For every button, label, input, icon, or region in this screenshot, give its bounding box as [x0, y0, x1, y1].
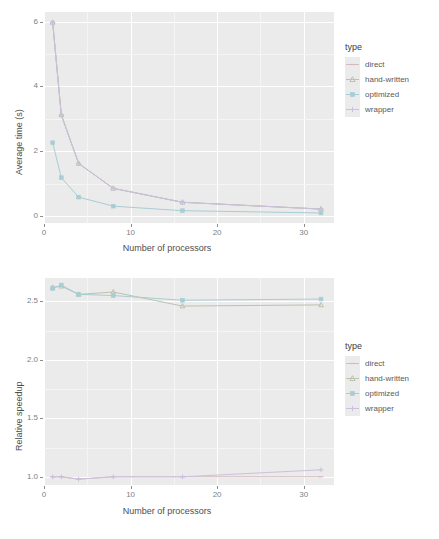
y-tick-label: 4: [10, 81, 38, 90]
legend-title-bottom: type: [345, 341, 409, 351]
data-point-wrapper: [76, 477, 81, 482]
x-tick-mark: [217, 224, 218, 227]
y-tick-label: 1.0: [10, 472, 38, 481]
series-line-wrapper: [53, 470, 321, 479]
y-tick-mark: [40, 216, 43, 217]
legend-label-optimized: optimized: [365, 389, 399, 398]
y-tick-label: 0: [10, 211, 38, 220]
y-tick-label: 2.0: [10, 355, 38, 364]
legend-label-hand-written: hand-written: [365, 374, 409, 383]
y-tick-label: 6: [10, 17, 38, 26]
x-tick-label: 30: [290, 228, 318, 237]
x-tick-label: 30: [290, 490, 318, 499]
x-tick-mark: [131, 486, 132, 489]
legend-items-bottom: direct hand-written optimized: [345, 356, 409, 416]
data-point-optimized: [51, 287, 55, 291]
legend-key-hand-written-icon: [345, 371, 360, 386]
x-tick-label: 10: [117, 490, 145, 499]
figure-root: Average time (s) Number of processors ty…: [0, 0, 439, 539]
data-point-wrapper: [59, 474, 64, 479]
data-point-optimized: [181, 298, 185, 302]
y-tick-label: 2.5: [10, 296, 38, 305]
y-tick-mark: [40, 301, 43, 302]
y-tick-mark: [40, 151, 43, 152]
x-tick-mark: [217, 486, 218, 489]
panel-relative-speedup: Relative speedup Number of processors ty…: [0, 266, 439, 539]
series-line-hand-written: [53, 22, 321, 209]
series-layer-top: [44, 12, 334, 223]
x-tick-label: 0: [30, 490, 58, 499]
data-point-optimized: [77, 292, 81, 296]
x-tick-label: 20: [203, 490, 231, 499]
x-tick-mark: [304, 224, 305, 227]
legend-key-hand-written-icon: [345, 72, 360, 87]
legend-item-hand-written[interactable]: hand-written: [345, 72, 409, 87]
data-point-optimized: [59, 283, 63, 287]
data-point-optimized: [319, 211, 323, 215]
legend-label-hand-written: hand-written: [365, 75, 409, 84]
data-point-wrapper: [180, 474, 185, 479]
legend-items-top: direct hand-written optimized: [345, 57, 409, 117]
data-point-wrapper: [319, 467, 324, 472]
legend-item-optimized[interactable]: optimized: [345, 386, 409, 401]
y-tick-mark: [40, 418, 43, 419]
x-tick-label: 10: [117, 228, 145, 237]
legend-item-direct[interactable]: direct: [345, 57, 409, 72]
y-tick-mark: [40, 22, 43, 23]
data-point-optimized: [111, 294, 115, 298]
plot-area-top: [44, 12, 334, 223]
x-tick-label: 0: [30, 228, 58, 237]
legend-title-top: type: [345, 42, 409, 52]
data-point-optimized: [59, 176, 63, 180]
plot-area-bottom: [44, 278, 334, 485]
legend-key-direct-icon: [345, 356, 360, 371]
data-point-hand-written: [319, 302, 324, 306]
series-line-wrapper: [53, 22, 321, 209]
data-point-optimized: [77, 195, 81, 199]
y-tick-mark: [40, 360, 43, 361]
x-tick-mark: [131, 224, 132, 227]
legend-key-direct-icon: [345, 57, 360, 72]
y-tick-mark: [40, 477, 43, 478]
legend-key-optimized-icon: [345, 87, 360, 102]
x-tick-mark: [304, 486, 305, 489]
legend-key-wrapper-icon: [345, 102, 360, 117]
y-tick-mark: [40, 86, 43, 87]
x-axis-title-bottom: Number of processors: [0, 506, 334, 516]
legend-item-wrapper[interactable]: wrapper: [345, 401, 409, 416]
data-point-optimized: [111, 204, 115, 208]
y-tick-label: 2: [10, 146, 38, 155]
series-layer-bottom: [44, 278, 334, 485]
x-axis-title-top: Number of processors: [0, 243, 334, 253]
data-point-wrapper: [50, 474, 55, 479]
legend-label-wrapper: wrapper: [365, 404, 394, 413]
y-tick-label: 1.5: [10, 413, 38, 422]
panel-average-time: Average time (s) Number of processors ty…: [0, 0, 439, 266]
legend-label-direct: direct: [365, 60, 385, 69]
legend-label-optimized: optimized: [365, 90, 399, 99]
data-point-wrapper: [111, 474, 116, 479]
data-point-optimized: [51, 141, 55, 145]
legend-label-direct: direct: [365, 359, 385, 368]
x-tick-label: 20: [203, 228, 231, 237]
data-point-optimized: [181, 209, 185, 213]
legend-key-optimized-icon: [345, 386, 360, 401]
legend-item-direct[interactable]: direct: [345, 356, 409, 371]
legend-bottom: type direct hand-written: [345, 341, 409, 416]
y-axis-title-top: Average time (s): [14, 109, 24, 175]
series-line-optimized: [53, 285, 321, 300]
legend-key-wrapper-icon: [345, 401, 360, 416]
x-tick-mark: [44, 486, 45, 489]
legend-item-hand-written[interactable]: hand-written: [345, 371, 409, 386]
legend-label-wrapper: wrapper: [365, 105, 394, 114]
legend-item-optimized[interactable]: optimized: [345, 87, 409, 102]
data-point-optimized: [319, 297, 323, 301]
x-tick-mark: [44, 224, 45, 227]
series-line-direct: [53, 22, 321, 209]
series-line-hand-written: [53, 286, 321, 306]
legend-item-wrapper[interactable]: wrapper: [345, 102, 409, 117]
legend-top: type direct hand-written: [345, 42, 409, 117]
